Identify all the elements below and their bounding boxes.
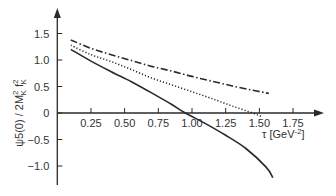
chart: 0.250.500.751.001.251.501.751.51.00.50−0… [0, 0, 336, 196]
x-axis-title-close: ] [302, 128, 305, 140]
axes [54, 8, 324, 185]
x-axis-arrow-icon [314, 110, 324, 117]
y-axis-title-f-sub: K [19, 79, 28, 85]
y-tick-label: −1.0 [28, 160, 50, 172]
x-axis-title: τ [GeV-2] [262, 127, 305, 140]
ticks: 0.250.500.751.001.251.501.751.51.00.50−0… [28, 28, 304, 173]
svg-text:ψ5(0) / 2M2K f2K: ψ5(0) / 2M2K f2K [11, 79, 28, 147]
x-axis-title-main: τ [GeV [262, 128, 295, 140]
x-tick-label: 0.50 [114, 117, 135, 129]
y-tick-label: −0.5 [28, 134, 50, 146]
y-axis-title-main: ψ5(0) / 2M [13, 95, 25, 147]
x-tick-label: 1.25 [215, 117, 236, 129]
x-tick-label: 0.75 [148, 117, 169, 129]
y-axis-title: ψ5(0) / 2M2K f2K [11, 79, 28, 147]
series-dotted [71, 45, 262, 117]
svg-text:τ [GeV-2]: τ [GeV-2] [262, 127, 305, 140]
x-tick-label: 1.00 [181, 117, 202, 129]
y-tick-label: 0 [43, 107, 49, 119]
series-group [71, 40, 273, 178]
y-axis-arrow-icon [54, 8, 61, 18]
y-tick-label: 1.5 [34, 28, 49, 40]
y-tick-label: 1.0 [34, 54, 49, 66]
x-tick-label: 0.25 [80, 117, 101, 129]
y-tick-label: 0.5 [34, 81, 49, 93]
